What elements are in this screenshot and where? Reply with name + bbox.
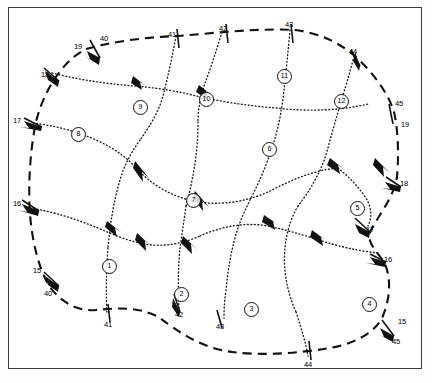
- region-label-9: 9: [133, 100, 148, 115]
- boundary-tick-marks: [22, 24, 401, 360]
- node-label: 44: [349, 47, 357, 56]
- node-label: 16: [384, 255, 392, 264]
- node-label: 41: [104, 320, 112, 329]
- node-label: 15: [398, 317, 406, 326]
- region-label-4: 4: [362, 297, 377, 312]
- node-label: 15: [33, 266, 41, 275]
- node-label: 19: [401, 120, 409, 129]
- node-label: 17: [366, 225, 374, 234]
- region-label-2: 2: [174, 287, 189, 302]
- region-label-6: 6: [262, 142, 277, 157]
- node-label: 41: [168, 30, 176, 39]
- node-label: 45: [395, 99, 403, 108]
- node-label: 45: [392, 337, 400, 346]
- internal-boundaries: [30, 30, 380, 356]
- outer-boundary: [29, 30, 398, 354]
- node-label: 17: [13, 116, 21, 125]
- node-label: 44: [304, 360, 312, 369]
- node-label: 42: [175, 310, 183, 319]
- region-label-11: 11: [277, 69, 292, 84]
- node-label: 18: [41, 70, 49, 79]
- node-label: 40: [100, 34, 108, 43]
- node-label: 19: [74, 42, 82, 51]
- region-label-1: 1: [102, 259, 117, 274]
- region-label-12: 12: [334, 94, 349, 109]
- node-label: 16: [13, 199, 21, 208]
- node-label: 18: [400, 179, 408, 188]
- node-label: 43: [285, 20, 293, 29]
- region-label-5: 5: [350, 201, 365, 216]
- node-label: 40: [44, 289, 52, 298]
- diagram-canvas: 19 40 41 42 43 44 45 19 18 17 16 15 45 4…: [0, 0, 432, 383]
- region-label-3: 3: [244, 302, 259, 317]
- node-label: 42: [219, 24, 227, 33]
- region-label-10: 10: [199, 92, 214, 107]
- region-label-8: 8: [71, 127, 86, 142]
- region-label-7: 7: [186, 193, 201, 208]
- node-label: 43: [216, 322, 224, 331]
